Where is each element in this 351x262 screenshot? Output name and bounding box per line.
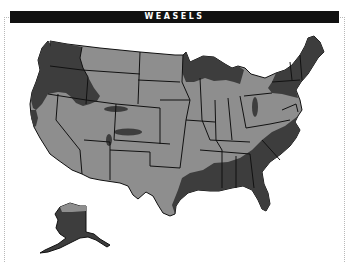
range-patch-ohio <box>252 97 258 117</box>
alaska-inset <box>40 203 110 253</box>
alaska-north-slope <box>60 203 86 212</box>
range-patch-colorado <box>114 129 142 136</box>
range-northeast <box>268 36 324 98</box>
range-patch-utah <box>106 134 112 146</box>
